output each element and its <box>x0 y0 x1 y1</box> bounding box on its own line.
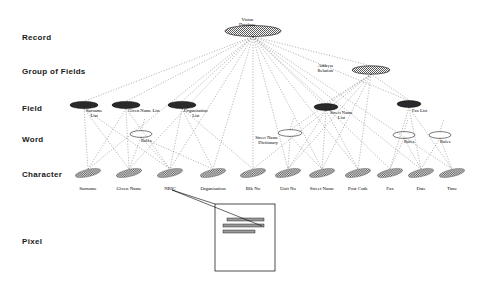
edges-from-root <box>84 37 452 170</box>
node-rules-nric <box>130 131 152 138</box>
node-label-surname-list: Surname List <box>86 108 102 118</box>
node-label-fax-list: Fax List <box>412 108 427 113</box>
tier-label-record: Record <box>22 33 51 42</box>
label-fax: Fax <box>386 186 393 191</box>
label-blk-no: Blk No <box>246 186 260 191</box>
tier-label-field: Field <box>22 104 42 113</box>
nodes-layer <box>70 26 465 180</box>
node-char-street-name <box>309 167 336 180</box>
node-label-address-relation: Address Relation <box>317 63 333 73</box>
node-address-relation <box>352 66 390 74</box>
node-label-street-name-dict: Street Name Dictionary <box>255 135 278 145</box>
pixel-detail-box <box>215 204 275 271</box>
label-nric: NRIC <box>164 186 176 191</box>
edges-word-links <box>129 74 452 169</box>
node-rules-fax <box>393 132 415 139</box>
node-label-organisation-list: Organisation List <box>184 108 208 118</box>
tier-label-group-of-fields: Group of Fields <box>22 67 86 76</box>
pixel-bar-2 <box>223 230 255 233</box>
diagram-edges-layer <box>0 0 491 288</box>
pixel-detail-layer <box>172 190 275 271</box>
tier-label-word: Word <box>22 135 44 144</box>
node-char-unit-no <box>275 167 302 180</box>
node-street-name-dict <box>278 130 302 137</box>
label-street-name: Street Name <box>310 186 334 191</box>
node-char-nric <box>157 167 184 180</box>
label-date: Date <box>416 186 425 191</box>
node-label-given-name-list: Given Name List <box>128 108 160 113</box>
label-surname: Surname <box>79 186 96 191</box>
node-label-street-name-list: Street Name List <box>330 110 353 120</box>
label-unit-no: Unit No <box>280 186 296 191</box>
node-label-rules-nric: Rules <box>141 138 151 143</box>
node-char-blk-no <box>240 167 267 180</box>
diagram-canvas: RecordGroup of FieldsFieldWordCharacterP… <box>0 0 491 288</box>
node-fax-list <box>397 101 421 108</box>
node-label-rules-date: Rules <box>440 139 450 144</box>
node-rules-date <box>429 132 451 139</box>
tier-label-character: Character <box>22 170 62 179</box>
label-time: Time <box>447 186 457 191</box>
node-label-rules-fax: Rules <box>404 139 414 144</box>
label-organisation: Organisation <box>200 186 225 191</box>
tier-label-pixel: Pixel <box>22 237 42 246</box>
pixel-leader-top <box>172 190 215 204</box>
node-label-vision-database: Vision Database <box>239 17 256 27</box>
label-given-name: Given Name <box>117 186 142 191</box>
label-post-code: Post Code <box>348 186 368 191</box>
